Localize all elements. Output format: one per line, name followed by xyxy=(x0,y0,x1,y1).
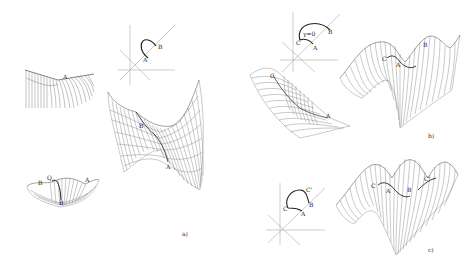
panel-c-main-surface xyxy=(336,159,458,255)
panel-b-inset-axes xyxy=(280,12,340,72)
label-b-inset-B: B xyxy=(328,28,333,35)
label-c-inset-B: B xyxy=(309,201,314,208)
label-b-main-A: A xyxy=(395,61,401,68)
caption-c: c) xyxy=(428,246,434,253)
label-a-small-A: A xyxy=(62,73,68,80)
label-a-main-A: A xyxy=(165,163,171,170)
panel-b-left-curve xyxy=(273,75,328,118)
label-a-bottom-B2: B xyxy=(59,199,64,206)
label-c-main-B: B xyxy=(407,186,412,193)
figure-canvas: A B A B Q A B xyxy=(0,0,473,271)
caption-b: b) xyxy=(428,132,434,139)
label-b-left-C: C xyxy=(270,72,275,79)
panel-a-bottom-curve xyxy=(52,180,61,200)
label-a-bottom-Q: Q xyxy=(47,174,52,181)
panel-a-main-surface xyxy=(108,80,203,190)
label-a-inset-B: B xyxy=(158,43,163,50)
label-c-inset-C: C xyxy=(283,205,288,212)
label-b-inset-gamma: γ=0 xyxy=(303,30,316,38)
label-c-inset-A: A xyxy=(300,210,306,217)
label-b-inset-A: A xyxy=(312,44,318,51)
label-c-main-A: A xyxy=(385,187,391,194)
label-b-main-B: B xyxy=(423,41,428,48)
panel-c-inset-curve xyxy=(287,190,309,211)
label-c-main-C: C xyxy=(371,182,376,189)
label-a-main-B: B xyxy=(139,122,144,129)
panel-c-inset-axes xyxy=(266,183,325,245)
panel-b-main-surface xyxy=(340,35,460,128)
label-a-bottom-B: B xyxy=(38,179,43,186)
panel-a-inset-axes xyxy=(118,25,175,85)
label-b-left-A: A xyxy=(325,112,331,119)
label-c-inset-Cp: C' xyxy=(306,186,313,193)
label-b-main-C: C xyxy=(382,55,387,62)
label-b-inset-C: C xyxy=(296,39,301,46)
label-a-bottom-A: A xyxy=(84,176,90,183)
caption-a: a) xyxy=(182,230,188,237)
label-a-inset-A: A xyxy=(142,56,148,63)
label-c-main-Cp: C' xyxy=(424,175,431,182)
panel-b-left-surface xyxy=(250,68,350,138)
panel-a-small-surface xyxy=(25,70,94,108)
